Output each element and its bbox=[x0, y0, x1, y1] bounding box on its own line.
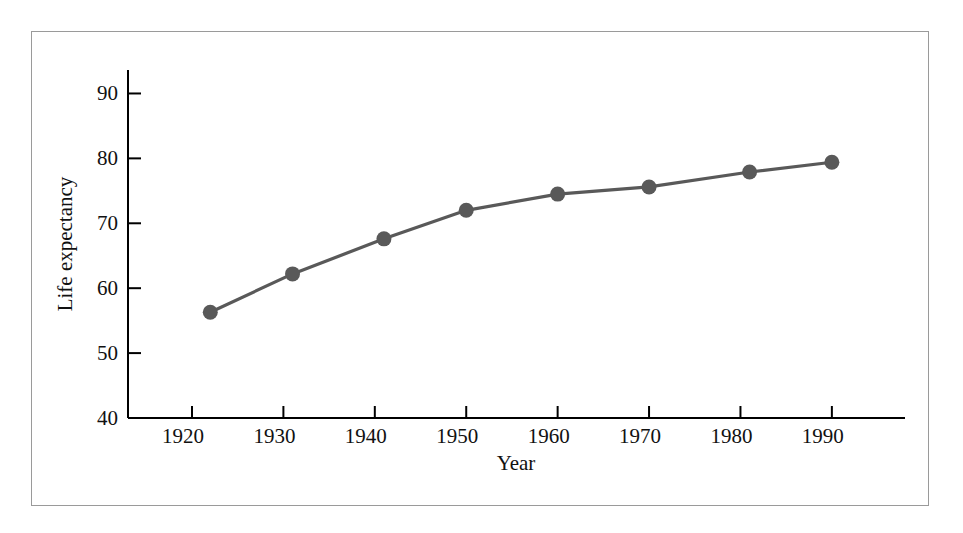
x-tick-label: 1920 bbox=[162, 424, 204, 448]
y-tick-label: 90 bbox=[97, 81, 118, 105]
data-point-marker bbox=[459, 203, 474, 218]
x-tick-label: 1930 bbox=[253, 424, 295, 448]
data-point-marker bbox=[642, 179, 657, 194]
data-point-marker bbox=[742, 165, 757, 180]
series-markers bbox=[203, 155, 840, 320]
data-point-marker bbox=[550, 187, 565, 202]
y-tick-label: 50 bbox=[97, 341, 118, 365]
x-tick-label: 1950 bbox=[436, 424, 478, 448]
y-tick-label: 60 bbox=[97, 276, 118, 300]
x-axis-tick-labels: 19201930194019501960197019801990 bbox=[162, 424, 844, 448]
data-point-marker bbox=[285, 266, 300, 281]
series-line bbox=[210, 162, 832, 312]
x-tick-label: 1990 bbox=[802, 424, 844, 448]
x-tick-label: 1940 bbox=[345, 424, 387, 448]
y-tick-label: 40 bbox=[97, 406, 118, 430]
y-axis-tick-labels: 405060708090 bbox=[97, 81, 118, 430]
x-tick-label: 1970 bbox=[619, 424, 661, 448]
data-point-marker bbox=[824, 155, 839, 170]
data-point-marker bbox=[203, 305, 218, 320]
data-point-marker bbox=[376, 231, 391, 246]
x-axis-title: Year bbox=[497, 451, 536, 475]
chart-canvas: 405060708090 192019301940195019601970198… bbox=[0, 0, 963, 533]
x-tick-label: 1980 bbox=[710, 424, 752, 448]
x-axis-ticks bbox=[192, 406, 832, 418]
y-tick-label: 80 bbox=[97, 146, 118, 170]
y-axis-title: Life expectancy bbox=[53, 176, 77, 311]
x-tick-label: 1960 bbox=[528, 424, 570, 448]
y-tick-label: 70 bbox=[97, 211, 118, 235]
axes-group bbox=[128, 70, 905, 418]
y-axis-ticks bbox=[128, 93, 141, 353]
figure-container: 405060708090 192019301940195019601970198… bbox=[0, 0, 963, 533]
